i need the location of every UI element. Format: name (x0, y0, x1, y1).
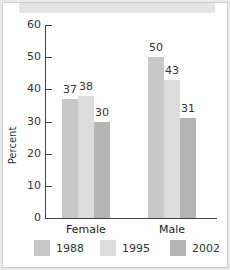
x-axis (45, 218, 217, 219)
y-tick (45, 25, 52, 26)
bar-male-1995 (164, 80, 180, 218)
category-label: Male (142, 223, 202, 236)
y-tick (45, 154, 52, 155)
y-tick (45, 186, 52, 187)
bar-value-label: 31 (177, 102, 199, 115)
top-band (19, 3, 215, 13)
category-label: Female (56, 223, 116, 236)
y-tick (45, 57, 52, 58)
y-tick-label: 30 (15, 115, 41, 128)
legend-swatch (100, 240, 116, 256)
bar-male-1988 (148, 57, 164, 218)
legend: 1988 1995 2002 (34, 240, 230, 258)
bar-value-label: 38 (75, 80, 97, 93)
bar-value-label: 50 (145, 41, 167, 54)
bar-value-label: 30 (91, 106, 113, 119)
y-tick (45, 218, 52, 219)
legend-label: 1988 (56, 242, 84, 255)
bar-male-2002 (180, 118, 196, 218)
bar-value-label: 43 (161, 64, 183, 77)
y-tick-label: 10 (15, 179, 41, 192)
legend-label: 1995 (122, 242, 150, 255)
legend-label: 2002 (192, 242, 220, 255)
y-tick-label: 50 (15, 50, 41, 63)
y-tick-label: 40 (15, 82, 41, 95)
y-tick (45, 122, 52, 123)
y-tick-label: 0 (15, 211, 41, 224)
bar-female-2002 (94, 122, 110, 219)
y-tick-label: 20 (15, 147, 41, 160)
y-tick-label: 60 (15, 18, 41, 31)
legend-swatch (170, 240, 186, 256)
bar-female-1988 (62, 99, 78, 218)
y-tick (45, 89, 52, 90)
legend-swatch (34, 240, 50, 256)
